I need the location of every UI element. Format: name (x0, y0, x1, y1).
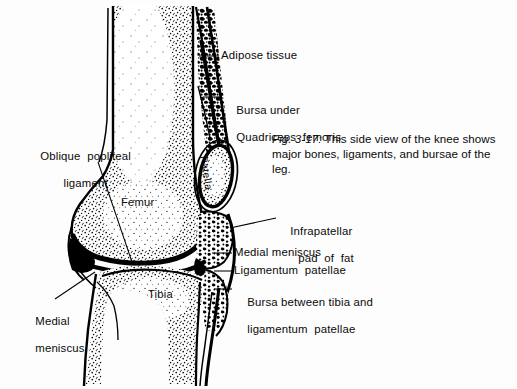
figure-number: Fig. 3-17: (272, 132, 321, 145)
callout-ligamentum-patellae: Ligamentum patellae (234, 264, 346, 278)
bone-label-tibia: Tibia (148, 288, 173, 300)
tibia-bone (70, 258, 220, 389)
knee-anatomy-figure: Femur Tibia Patella Adipose tissue Bursa… (0, 0, 517, 389)
callout-oblique-popliteal-ligament-line2: ligament (64, 177, 108, 189)
callout-medial-meniscus-left: Medial meniscus (22, 301, 85, 369)
callout-bursa-between-tibia: Bursa between tibia and ligamentum patel… (234, 282, 373, 350)
callout-oblique-popliteal-ligament-line1: Oblique popliteal (40, 150, 131, 162)
callout-adipose-tissue: Adipose tissue (221, 49, 297, 63)
callout-bursa-between-tibia-line2: ligamentum patellae (247, 323, 355, 335)
leader-medial-meniscus-left (55, 272, 95, 299)
callout-medial-meniscus-right: Medial meniscus (234, 246, 321, 260)
callout-medial-meniscus-left-line2: meniscus (35, 342, 84, 354)
callout-oblique-popliteal-ligament: Oblique popliteal ligament (14, 136, 144, 204)
callout-medial-meniscus-left-line1: Medial (35, 315, 69, 327)
callout-bursa-between-tibia-line1: Bursa between tibia and (247, 296, 373, 308)
callout-infrapatellar-pad-of-fat-line1: Infrapatellar (290, 225, 352, 237)
figure-caption: Fig. 3-17: This side view of the knee sh… (272, 131, 509, 177)
callout-bursa-under-quadriceps-line1: Bursa under (236, 104, 300, 116)
leader-infrapatellar-fat (230, 218, 276, 228)
